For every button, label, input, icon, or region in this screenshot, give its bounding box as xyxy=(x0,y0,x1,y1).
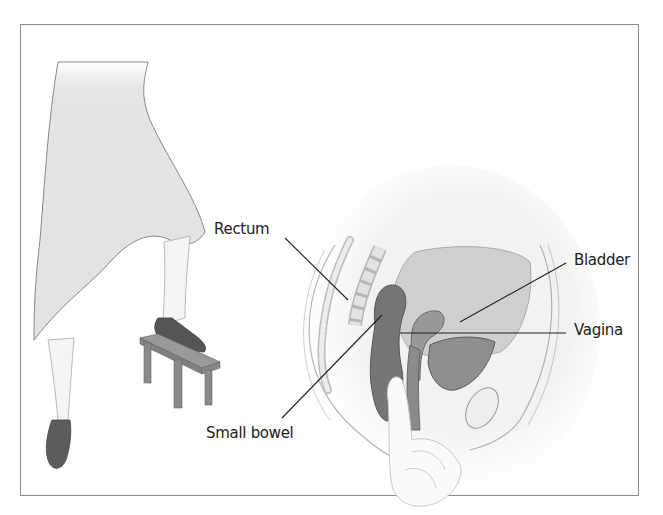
illustration xyxy=(0,0,663,515)
left-leg xyxy=(48,338,74,422)
left-shoe xyxy=(46,420,70,468)
stool xyxy=(140,334,220,408)
label-small-bowel: Small bowel xyxy=(206,424,294,442)
woman-figure xyxy=(34,62,220,468)
label-rectum: Rectum xyxy=(214,220,269,238)
pelvic-cross-section xyxy=(300,165,600,506)
label-vagina: Vagina xyxy=(574,321,623,339)
right-leg xyxy=(163,236,190,324)
label-bladder: Bladder xyxy=(574,251,630,269)
